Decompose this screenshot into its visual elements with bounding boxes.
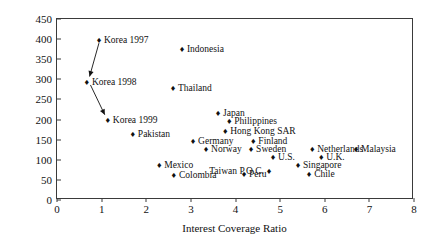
x-tick-label: 7 bbox=[367, 198, 373, 215]
point-label: Korea 1998 bbox=[92, 78, 137, 88]
x-tick-label: 2 bbox=[144, 198, 150, 215]
y-tick-label: 350 bbox=[36, 54, 58, 65]
point-label: Malaysia bbox=[361, 145, 396, 155]
y-tick-label: 150 bbox=[36, 134, 58, 145]
diamond-marker-icon: ♦ bbox=[179, 46, 185, 52]
diamond-marker-icon: ♦ bbox=[250, 138, 256, 144]
y-tick-label: 50 bbox=[41, 174, 57, 185]
point-label: Korea 1997 bbox=[104, 36, 149, 46]
point-label: Norway bbox=[211, 145, 242, 155]
plot-area: 050100150200250300350400450 012345678 ♦K… bbox=[56, 18, 413, 199]
y-tick-label: 250 bbox=[36, 94, 58, 105]
point-label: Korea 1999 bbox=[113, 116, 158, 126]
x-tick-label: 8 bbox=[411, 198, 417, 215]
point-label: Indonesia bbox=[187, 45, 224, 55]
y-tick-label: 450 bbox=[36, 14, 58, 25]
point-label: Pakistan bbox=[138, 130, 170, 140]
diamond-marker-icon: ♦ bbox=[170, 85, 176, 91]
x-tick-label: 0 bbox=[54, 198, 60, 215]
point-label: Hong Kong SAR bbox=[230, 127, 295, 137]
y-tick-label: 300 bbox=[36, 74, 58, 85]
x-tick-label: 6 bbox=[322, 198, 328, 215]
point-label: Philippines bbox=[234, 117, 277, 127]
diamond-marker-icon: ♦ bbox=[215, 110, 221, 116]
diamond-marker-icon: ♦ bbox=[190, 138, 196, 144]
diamond-marker-icon: ♦ bbox=[270, 154, 276, 160]
x-axis-title: Interest Coverage Ratio bbox=[56, 222, 413, 234]
point-label: Peru bbox=[249, 170, 266, 180]
diamond-marker-icon: ♦ bbox=[156, 162, 162, 168]
diamond-marker-icon: ♦ bbox=[203, 146, 209, 152]
diamond-marker-icon: ♦ bbox=[353, 146, 359, 152]
diamond-marker-icon: ♦ bbox=[130, 131, 136, 137]
diamond-marker-icon: ♦ bbox=[105, 117, 111, 123]
point-label: Chile bbox=[314, 170, 335, 180]
diamond-marker-icon: ♦ bbox=[226, 118, 232, 124]
point-label: Thailand bbox=[178, 84, 212, 94]
diamond-marker-icon: ♦ bbox=[84, 79, 90, 85]
diamond-marker-icon: ♦ bbox=[295, 162, 301, 168]
scatter-chart: Debt-to-equity Ratio (percent) Interest … bbox=[0, 0, 429, 251]
diamond-marker-icon: ♦ bbox=[306, 171, 312, 177]
y-tick-label: 400 bbox=[36, 34, 58, 45]
y-tick-label: 100 bbox=[36, 154, 58, 165]
x-tick-label: 5 bbox=[277, 198, 283, 215]
point-label: U.S. bbox=[278, 153, 295, 163]
diamond-marker-icon: ♦ bbox=[241, 171, 247, 177]
diamond-marker-icon: ♦ bbox=[171, 172, 177, 178]
x-tick-label: 4 bbox=[233, 198, 239, 215]
diamond-marker-icon: ♦ bbox=[96, 37, 102, 43]
y-tick-label: 200 bbox=[36, 114, 58, 125]
x-tick-label: 3 bbox=[188, 198, 194, 215]
diamond-marker-icon: ♦ bbox=[248, 146, 254, 152]
diamond-marker-icon: ♦ bbox=[266, 168, 272, 174]
korea-1997-to-1998-head bbox=[89, 71, 94, 77]
diamond-marker-icon: ♦ bbox=[222, 128, 228, 134]
diamond-marker-icon: ♦ bbox=[309, 146, 315, 152]
x-tick-label: 1 bbox=[99, 198, 105, 215]
